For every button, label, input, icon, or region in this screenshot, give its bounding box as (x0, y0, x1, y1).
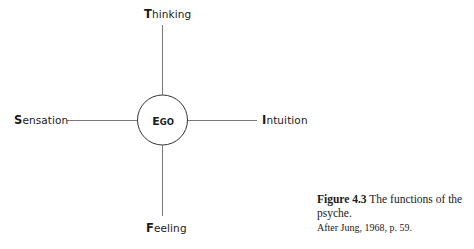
feeling-rest: eeling (154, 222, 187, 234)
feeling-label: Feeling (146, 222, 187, 234)
feeling-initial: F (146, 221, 154, 235)
thinking-label: Thinking (144, 8, 191, 20)
ego-rest: GO (160, 117, 174, 127)
ego-initial: E (152, 115, 160, 128)
sensation-rest: ensation (22, 114, 68, 126)
figure-caption: Figure 4.3 The functions of the psyche. … (317, 192, 474, 235)
caption-title-block: Figure 4.3 The functions of the psyche. (317, 192, 474, 220)
thinking-rest: hinking (152, 8, 191, 20)
figure-source: After Jung, 1968, p. 59. (317, 221, 474, 235)
thinking-initial: T (144, 7, 152, 21)
ego-label: EGO (146, 114, 180, 128)
figure-number: Figure 4.3 (317, 193, 367, 205)
intuition-label: Intuition (262, 114, 308, 126)
intuition-rest: ntuition (266, 114, 307, 126)
sensation-label: Sensation (14, 114, 68, 126)
